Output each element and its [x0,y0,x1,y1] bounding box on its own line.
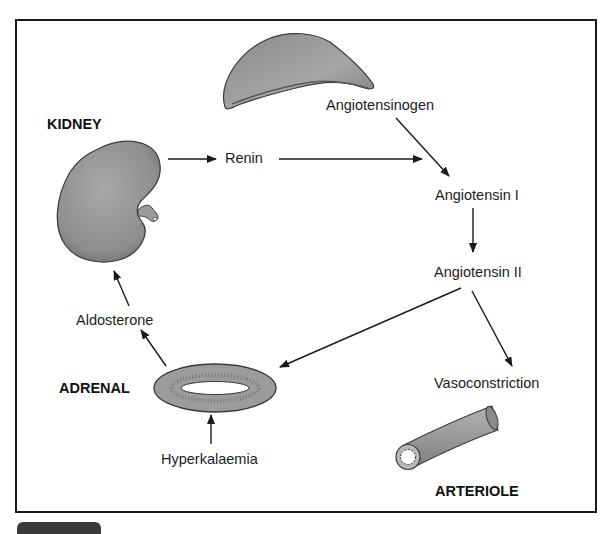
angiotensinogen-label: Angiotensinogen [326,98,434,113]
kidney-icon [57,141,160,262]
renin-label: Renin [225,151,263,166]
hyperkalaemia-label: Hyperkalaemia [161,452,258,467]
angiotensin2-label: Angiotensin II [434,265,522,280]
arteriole-icon [396,405,500,469]
arrow-angiotensinogen-angiotensin1 [396,118,449,176]
arrow-aldosterone-kidney [114,271,129,306]
arrow-angiotensin2-adrenal [280,288,461,367]
arteriole-label: ARTERIOLE [435,484,519,499]
kidney-label: KIDNEY [47,117,102,132]
arrow-adrenal-aldosterone [141,330,166,366]
arrow-angiotensin2-vasoconstriction [472,291,512,366]
vasoconstriction-label: Vasoconstriction [434,376,539,391]
adrenal-icon [154,364,276,412]
angiotensin1-label: Angiotensin I [435,188,519,203]
aldosterone-label: Aldosterone [76,313,153,328]
adrenal-label: ADRENAL [59,381,130,396]
